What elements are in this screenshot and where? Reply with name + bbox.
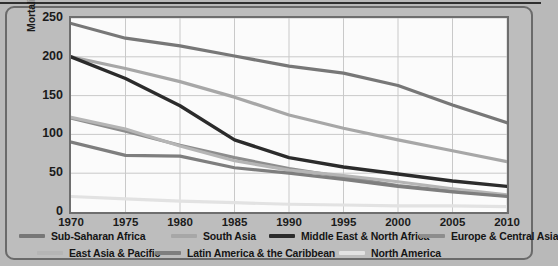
x-tick-label: 1995 [321,216,367,228]
plot-area-wrapper: Mortality Rate (per 1,000 live births) 0… [69,16,509,214]
plot-area [69,16,509,214]
y-tick-label: 50 [17,165,63,179]
legend-item-label: East Asia & Pacific [69,247,160,259]
legend-swatch-line-icon [419,234,445,238]
y-tick-label: 100 [17,126,63,140]
legend-item-label: Latin America & the Caribbean [187,247,335,259]
legend-item[interactable]: South Asia [171,230,256,242]
x-tick-label: 1980 [157,216,203,228]
y-tick-label: 250 [17,10,63,24]
legend-item[interactable]: Latin America & the Caribbean [155,247,335,259]
legend-item[interactable]: East Asia & Pacific [37,247,160,259]
line-chart-svg [71,18,507,212]
legend-row: East Asia & PacificLatin America & the C… [19,245,535,260]
x-tick-label: 1970 [48,216,94,228]
title-divider-rule [0,2,541,4]
chart-panel: Mortality Rate (per 1,000 live births) 0… [5,6,533,260]
chart-legend: Sub-Saharan AfricaSouth AsiaMiddle East … [19,228,535,266]
legend-swatch-line-icon [339,251,365,255]
legend-item-label: North America [371,247,441,259]
legend-item[interactable]: Europe & Central Asia [419,230,558,242]
legend-swatch-line-icon [171,234,197,238]
legend-swatch-line-icon [269,234,295,238]
x-tick-label: 1985 [212,216,258,228]
y-tick-label: 150 [17,88,63,102]
legend-swatch-line-icon [37,251,63,255]
legend-swatch-line-icon [19,234,45,238]
x-tick-label: 1990 [266,216,312,228]
legend-item[interactable]: Middle East & North Africa [269,230,429,242]
y-axis-tick-labels: 050100150200250 [17,16,63,214]
legend-item-label: Europe & Central Asia [451,230,558,242]
x-tick-label: 2000 [375,216,421,228]
x-tick-label: 2010 [484,216,530,228]
legend-item[interactable]: North America [339,247,441,259]
legend-item-label: Middle East & North Africa [301,230,429,242]
x-tick-label: 2005 [430,216,476,228]
y-tick-label: 200 [17,49,63,63]
legend-item[interactable]: Sub-Saharan Africa [19,230,145,242]
legend-swatch-line-icon [155,251,181,255]
legend-row: Sub-Saharan AfricaSouth AsiaMiddle East … [19,228,535,243]
legend-item-label: South Asia [203,230,256,242]
x-tick-label: 1975 [103,216,149,228]
legend-item-label: Sub-Saharan Africa [51,230,145,242]
